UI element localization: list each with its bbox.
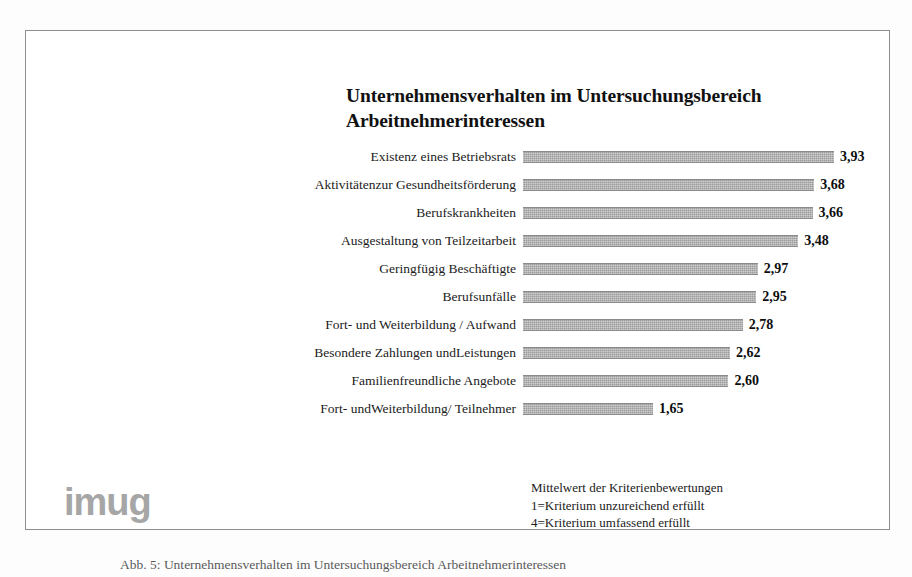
bar-track: 2,78 <box>523 311 891 339</box>
chart-frame: Unternehmensverhalten im Untersuchungsbe… <box>25 30 890 530</box>
bar-row: Geringfügig Beschäftigte2,97 <box>26 255 891 283</box>
bar-track: 2,60 <box>523 367 891 395</box>
bar-value-label: 2,97 <box>764 255 789 283</box>
bar-row: Familienfreundliche Angebote2,60 <box>26 367 891 395</box>
chart-legend-note: Mittelwert der Kriterienbewertungen 1=Kr… <box>531 479 723 532</box>
category-label: Aktivitätenzur Gesundheitsförderung <box>315 171 516 199</box>
bar-value-label: 3,48 <box>804 227 829 255</box>
bar <box>523 291 756 303</box>
bar-value-label: 3,93 <box>840 143 865 171</box>
bar-row: Aktivitätenzur Gesundheitsförderung3,68 <box>26 171 891 199</box>
bar-chart-plot-area: Existenz eines Betriebsrats3,93Aktivität… <box>26 143 891 423</box>
bar <box>523 235 798 247</box>
bar-row: Besondere Zahlungen undLeistungen2,62 <box>26 339 891 367</box>
bar-track: 2,97 <box>523 255 891 283</box>
bar-track: 3,66 <box>523 199 891 227</box>
bar-value-label: 2,95 <box>762 283 787 311</box>
bar-value-label: 2,60 <box>734 367 759 395</box>
bar <box>523 319 743 331</box>
category-label: Geringfügig Beschäftigte <box>379 255 516 283</box>
legend-note-line-2: 1=Kriterium unzureichend erfüllt <box>531 497 723 515</box>
category-label: Existenz eines Betriebsrats <box>371 143 516 171</box>
bar-value-label: 3,68 <box>820 171 845 199</box>
chart-title: Unternehmensverhalten im Untersuchungsbe… <box>346 83 876 133</box>
category-label: Fort- undWeiterbildung/ Teilnehmer <box>320 395 516 423</box>
category-label: Familienfreundliche Angebote <box>351 367 516 395</box>
category-label: Fort- und Weiterbildung / Aufwand <box>325 311 516 339</box>
figure-caption: Abb. 5: Unternehmensverhalten im Untersu… <box>120 556 860 577</box>
bar-row: Existenz eines Betriebsrats3,93 <box>26 143 891 171</box>
bar-value-label: 2,62 <box>736 339 761 367</box>
bar-track: 2,62 <box>523 339 891 367</box>
category-label: Ausgestaltung von Teilzeitarbeit <box>341 227 516 255</box>
bar <box>523 375 728 387</box>
bar-row: Berufsunfälle2,95 <box>26 283 891 311</box>
bar-row: Fort- undWeiterbildung/ Teilnehmer1,65 <box>26 395 891 423</box>
bar <box>523 151 834 163</box>
bar-row: Fort- und Weiterbildung / Aufwand2,78 <box>26 311 891 339</box>
bar-track: 1,65 <box>523 395 891 423</box>
bar-value-label: 1,65 <box>659 395 684 423</box>
imug-logo: imug <box>64 483 151 521</box>
bar-value-label: 3,66 <box>819 199 844 227</box>
bar-track: 3,93 <box>523 143 891 171</box>
bar-track: 3,68 <box>523 171 891 199</box>
bar-track: 2,95 <box>523 283 891 311</box>
category-label: Berufsunfälle <box>443 283 516 311</box>
bar-track: 3,48 <box>523 227 891 255</box>
legend-note-line-3: 4=Kriterium umfassend erfüllt <box>531 514 723 532</box>
bar <box>523 347 730 359</box>
bar <box>523 207 813 219</box>
bar-row: Ausgestaltung von Teilzeitarbeit3,48 <box>26 227 891 255</box>
chart-title-line-2: Arbeitnehmerinteressen <box>346 108 876 133</box>
bar-value-label: 2,78 <box>749 311 774 339</box>
category-label: Besondere Zahlungen undLeistungen <box>314 339 516 367</box>
bar <box>523 179 814 191</box>
legend-note-line-1: Mittelwert der Kriterienbewertungen <box>531 479 723 497</box>
bar <box>523 263 758 275</box>
chart-title-line-1: Unternehmensverhalten im Untersuchungsbe… <box>346 83 876 108</box>
bar <box>523 403 653 415</box>
bar-row: Berufskrankheiten3,66 <box>26 199 891 227</box>
document-page: Unternehmensverhalten im Untersuchungsbe… <box>0 0 912 577</box>
category-label: Berufskrankheiten <box>416 199 516 227</box>
